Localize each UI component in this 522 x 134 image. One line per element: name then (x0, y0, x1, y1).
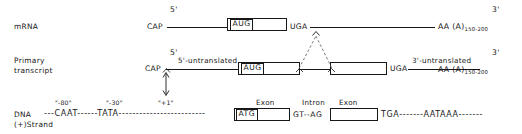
mrna-three-utr-line (310, 27, 435, 28)
primary-exon2-box (330, 62, 387, 75)
mrna-five-utr-line (167, 27, 227, 28)
dna-exon2-box (330, 108, 378, 121)
splice-dashed-triangle (299, 36, 332, 69)
row-label-mrna: mRNA (14, 22, 38, 31)
primary-start-codon-box: AUG (241, 63, 264, 75)
dna-terminator-sequence: TGA-------AATAAA------- (381, 110, 483, 119)
primary-five-utr-line (166, 69, 238, 70)
mrna-polya-tail: AA (A)150-200 (438, 22, 488, 32)
row-label-dna-line2: (+)Strand (14, 120, 53, 129)
mrna-five-prime-label: 5' (170, 5, 178, 14)
primary-five-prime-label: 5' (170, 48, 178, 57)
dna-tata-box: TATA (97, 109, 118, 118)
dna-stop-codon: TGA (381, 110, 399, 119)
dna-splice-donor: GT (293, 110, 304, 119)
dna-start-codon-box: ATG (236, 109, 258, 121)
dna-caat-trailing-dashes: ------ (77, 109, 97, 118)
dna-intron-label: Intron (302, 98, 325, 107)
primary-polya-text: AA (A) (438, 65, 465, 74)
mrna-polya-subscript: 150-200 (465, 26, 489, 32)
mrna-polya-text: AA (A) (438, 22, 465, 31)
dna-exon1-label: Exon (256, 98, 275, 107)
primary-five-untranslated-label: 5'-untranslated (178, 56, 237, 65)
dna-tick-plus1: "+1" (158, 99, 174, 106)
row-label-primary-transcript-line2: transcript (14, 66, 53, 75)
dna-promoter-sequence: ---CAAT------TATA-----------------------… (44, 109, 206, 118)
dna-stop-trailing-dashes: ------- (399, 110, 423, 119)
row-label-dna-line1: DNA (14, 110, 31, 119)
primary-stop-codon-label: UGA (390, 64, 408, 73)
transcription-start-double-arrow-icon (163, 73, 169, 96)
dna-splice-sites: GT--AG (293, 110, 322, 119)
mrna-start-codon-box: AUG (230, 19, 253, 31)
primary-polya-subscript: 150-200 (465, 69, 489, 75)
dna-tata-trailing-dashes: ------------------------- (118, 109, 205, 118)
dna-tick-minus30: "-30" (106, 99, 123, 106)
mrna-stop-codon-label: UGA (290, 22, 308, 31)
row-label-primary-transcript-line1: Primary (14, 56, 45, 65)
mrna-three-prime-label: 3' (492, 5, 500, 14)
dna-splice-acceptor: AG (310, 110, 322, 119)
dna-tail-dashes: ------- (459, 110, 483, 119)
primary-intron-line (299, 69, 331, 70)
primary-three-untranslated-label: 3'-untranslated (412, 56, 471, 65)
gene-expression-diagram: mRNA 5' CAP AUG UGA 3' AA (A)150-200 Pri… (0, 0, 522, 134)
primary-three-prime-label: 3' (492, 48, 500, 57)
dna-polya-signal: AATAAA (423, 110, 458, 119)
dna-exon2-label: Exon (339, 98, 358, 107)
dna-lead-dashes: --- (44, 109, 54, 118)
primary-cap-label: CAP (145, 64, 161, 73)
splice-apex-caret-icon (313, 32, 320, 36)
dna-tick-minus80: "-80" (55, 99, 72, 106)
primary-polya-tail: AA (A)150-200 (438, 65, 488, 75)
dna-caat-box: CAAT (54, 109, 77, 118)
mrna-cap-label: CAP (147, 22, 163, 31)
